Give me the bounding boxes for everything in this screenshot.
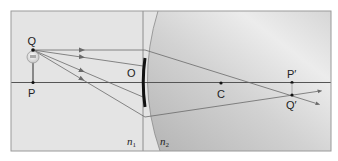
label-P: P <box>28 87 35 99</box>
label-C: C <box>217 88 225 100</box>
medium-2-region <box>147 11 331 151</box>
point-C <box>219 81 222 84</box>
point-P <box>31 81 34 84</box>
label-P-prime: P′ <box>287 68 296 80</box>
label-n1-subscript: 1 <box>133 141 137 149</box>
point-Q-prime <box>290 93 293 96</box>
label-n2-subscript: 2 <box>166 141 170 149</box>
aperture-bar <box>143 58 145 107</box>
refraction-diagram: Q P O C P′ Q′ n1 n2 <box>0 0 338 161</box>
label-O: O <box>127 67 136 79</box>
label-Q: Q <box>28 35 37 47</box>
point-Q <box>31 48 35 52</box>
label-Q-prime: Q′ <box>286 99 297 111</box>
